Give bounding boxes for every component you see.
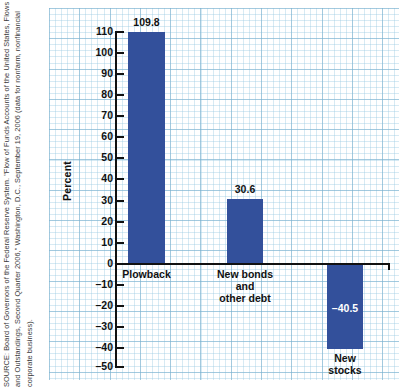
chart-figure: SOURCE: Board of Governors of the Federa… bbox=[0, 0, 405, 388]
y-axis-tick bbox=[117, 221, 124, 223]
category-label-new-stocks-line2: stocks bbox=[310, 365, 380, 377]
category-label-new-bonds-line2: and bbox=[205, 281, 285, 293]
y-axis-tick-label: 70 bbox=[73, 110, 113, 120]
y-axis-tick bbox=[117, 242, 124, 244]
y-axis-tick bbox=[117, 326, 124, 328]
y-axis-tick bbox=[117, 305, 124, 307]
y-axis-tick-label: 20 bbox=[73, 216, 113, 226]
category-label-new-stocks-line1: New bbox=[310, 353, 380, 365]
y-axis-tick-label: 50 bbox=[73, 152, 113, 162]
bar-value-plowback: 109.8 bbox=[113, 17, 180, 28]
y-axis-tick-label: 10 bbox=[73, 237, 113, 247]
y-axis-tick-label: –10 bbox=[73, 279, 113, 289]
y-axis-tick bbox=[117, 366, 124, 368]
y-axis-tick-label: –20 bbox=[73, 300, 113, 310]
y-axis-tick-label: 60 bbox=[73, 131, 113, 141]
y-axis-tick-label: –30 bbox=[73, 321, 113, 331]
y-axis-tick-label: 0 bbox=[73, 258, 113, 268]
y-axis-tick bbox=[117, 200, 124, 202]
y-axis-tick-label: 80 bbox=[73, 89, 113, 99]
category-label-plowback: Plowback bbox=[110, 269, 183, 281]
y-axis-tick bbox=[117, 347, 124, 349]
y-axis-title: Percent bbox=[61, 158, 73, 204]
y-axis-tick bbox=[117, 284, 124, 286]
y-axis-tick-label: 90 bbox=[73, 68, 113, 78]
chart-plot-area: 110 100 90 80 70 60 50 40 30 20 10 0 –10… bbox=[0, 0, 405, 388]
y-axis-tick-label: 30 bbox=[73, 195, 113, 205]
y-axis-tick bbox=[117, 157, 124, 159]
y-axis-tick bbox=[117, 136, 124, 138]
y-axis-tick-label: 40 bbox=[73, 173, 113, 183]
category-label-new-bonds-line3: other debt bbox=[205, 293, 285, 305]
y-axis-tick-label: –40 bbox=[73, 342, 113, 352]
y-axis-tick bbox=[117, 31, 124, 33]
x-axis-end-tick bbox=[388, 263, 390, 270]
y-axis-tick bbox=[117, 52, 124, 54]
bar-value-new-stocks: –40.5 bbox=[312, 303, 378, 314]
y-axis-tick-label: 100 bbox=[73, 47, 113, 57]
category-label-new-bonds-line1: New bonds bbox=[205, 269, 285, 281]
bar-value-new-bonds-and-other-debt: 30.6 bbox=[212, 184, 278, 195]
y-axis-tick bbox=[117, 94, 124, 96]
y-axis-tick-label: 110 bbox=[73, 26, 113, 36]
y-axis-tick bbox=[117, 115, 124, 117]
y-axis-tick bbox=[117, 178, 124, 180]
y-axis-tick bbox=[117, 73, 124, 75]
bar-plowback[interactable] bbox=[128, 32, 165, 263]
y-axis-tick-label: –50 bbox=[73, 361, 113, 371]
bar-new-bonds-and-other-debt[interactable] bbox=[227, 199, 263, 263]
